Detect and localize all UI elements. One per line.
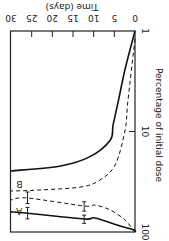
- time-tick-label: 15: [67, 13, 78, 23]
- upper-dashed-curve: [11, 39, 135, 191]
- curve-label-b: B: [16, 179, 22, 189]
- time-tick-label: 20: [46, 13, 58, 23]
- time-tick-label: 25: [26, 13, 37, 23]
- axis-ticks: [32, 31, 135, 132]
- percent-tick-label: 10: [140, 126, 150, 138]
- time-tick-label: 30: [5, 13, 17, 23]
- percent-tick-label: 100: [140, 223, 150, 240]
- curve-label-a: A: [15, 206, 22, 216]
- chart: 051015202530110100Time (days)Percentage …: [0, 0, 169, 241]
- time-tick-label: 0: [132, 13, 138, 23]
- plot-frame: [11, 31, 136, 232]
- time-axis-title: Time (days): [45, 2, 99, 12]
- percent-axis-title: Percentage of initial dose: [154, 68, 164, 183]
- upper-solid-curve: [11, 31, 135, 171]
- data-curves: [11, 31, 135, 232]
- time-tick-label: 5: [111, 13, 117, 23]
- lower-dashed-curve: [11, 198, 135, 232]
- lower-solid-curve: [11, 212, 135, 232]
- percent-tick-label: 1: [140, 28, 150, 34]
- time-tick-label: 10: [88, 13, 100, 23]
